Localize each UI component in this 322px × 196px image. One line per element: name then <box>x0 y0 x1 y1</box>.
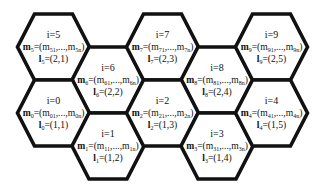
close-paren: ) <box>190 107 193 119</box>
equals-open: =(m <box>34 41 51 53</box>
vector-symbol: m <box>186 74 194 85</box>
equals-open: =(m <box>34 107 51 119</box>
close-paren: ) <box>299 107 302 119</box>
location-value: =(1,4) <box>208 152 232 164</box>
cell-index-label: i=0 <box>47 95 60 106</box>
ellipsis: ,..., <box>274 41 286 52</box>
ellipsis: ,..., <box>219 140 231 151</box>
location-value: =(2,3) <box>153 53 177 65</box>
equals-open: =(m <box>88 140 105 152</box>
close-paren: ) <box>81 41 84 53</box>
ellipsis: ,..., <box>56 41 68 52</box>
close-paren: ) <box>245 140 248 152</box>
equals-open: =(m <box>143 41 160 53</box>
vector-symbol: m <box>23 41 31 52</box>
close-paren: ) <box>136 140 139 152</box>
location-value: =(2,5) <box>262 53 286 65</box>
location-value: =(2,1) <box>44 53 68 65</box>
location-value: =(1,3) <box>153 119 177 131</box>
location-value: =(1,5) <box>262 119 286 131</box>
cell-index-label: i=2 <box>156 95 169 106</box>
cell-index-label: i=3 <box>210 128 223 139</box>
cell-index-label: i=4 <box>265 95 278 106</box>
ellipsis: ,..., <box>165 107 177 118</box>
equals-open: =(m <box>252 107 269 119</box>
ellipsis: ,..., <box>110 140 122 151</box>
hex-cell-9: i=9m9=(m91,...,m9n)l9=(2,5) <box>236 14 308 80</box>
close-paren: ) <box>136 74 139 86</box>
vector-symbol: m <box>77 74 85 85</box>
ellipsis: ,..., <box>165 41 177 52</box>
equals-open: =(m <box>197 74 214 86</box>
cell-index-label: i=7 <box>156 29 169 40</box>
ellipsis: ,..., <box>219 74 231 85</box>
vector-symbol: m <box>186 140 194 151</box>
equals-open: =(m <box>88 74 105 86</box>
equals-open: =(m <box>143 107 160 119</box>
cell-index-label: i=6 <box>101 62 114 73</box>
location-value: =(2,4) <box>208 86 232 98</box>
location-value: =(2,2) <box>99 86 123 98</box>
ellipsis: ,..., <box>274 107 286 118</box>
cell-index-label: i=8 <box>210 62 223 73</box>
close-paren: ) <box>245 74 248 86</box>
vector-symbol: m <box>132 107 140 118</box>
ellipsis: ,..., <box>110 74 122 85</box>
ellipsis: ,..., <box>56 107 68 118</box>
equals-open: =(m <box>252 41 269 53</box>
vector-symbol: m <box>23 107 31 118</box>
close-paren: ) <box>81 107 84 119</box>
location-value: =(1,1) <box>44 119 68 131</box>
vector-symbol: m <box>77 140 85 151</box>
hexagonal-cell-grid: i=5m5=(m51,...,m5n)l5=(2,1)i=6m6=(m61,..… <box>0 0 322 196</box>
close-paren: ) <box>190 41 193 53</box>
vector-symbol: m <box>241 107 249 118</box>
hex-cell-4: i=4m4=(m41,...,m4n)l4=(1,5) <box>236 80 308 146</box>
cell-index-label: i=9 <box>265 29 278 40</box>
cell-index-label: i=1 <box>101 128 114 139</box>
equals-open: =(m <box>197 140 214 152</box>
hex-cells: i=5m5=(m51,...,m5n)l5=(2,1)i=6m6=(m61,..… <box>18 14 308 179</box>
vector-symbol: m <box>241 41 249 52</box>
cell-index-label: i=5 <box>47 29 60 40</box>
vector-symbol: m <box>132 41 140 52</box>
close-paren: ) <box>299 41 302 53</box>
location-value: =(1,2) <box>99 152 123 164</box>
